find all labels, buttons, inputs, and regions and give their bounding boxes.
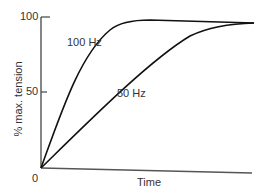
y-tick-label-100: 100 xyxy=(20,10,38,22)
series-label-50hz: 50 Hz xyxy=(117,87,146,99)
x-axis xyxy=(41,168,252,173)
y-tick-label-0: 0 xyxy=(32,172,38,184)
y-axis-label: % max. tension xyxy=(12,54,24,144)
series-label-100hz: 100 Hz xyxy=(67,36,102,48)
y-tick-label-50: 50 xyxy=(26,85,38,97)
x-axis-label: Time xyxy=(137,176,161,188)
